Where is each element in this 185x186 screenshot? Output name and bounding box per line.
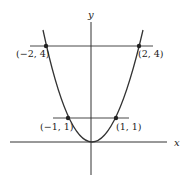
label-1-1: (1, 1) (116, 121, 142, 132)
point-neg1-1 (66, 116, 70, 120)
parabola-diagram: (−2, 4) (2, 4) (−1, 1) (1, 1) x y (0, 0, 185, 186)
label-2-4: (2, 4) (138, 48, 164, 59)
label-neg1-1: (−1, 1) (40, 121, 74, 132)
point-1-1 (114, 116, 118, 120)
y-axis-label: y (87, 9, 94, 20)
label-neg2-4: (−2, 4) (16, 48, 50, 59)
x-axis-label: x (174, 137, 180, 148)
